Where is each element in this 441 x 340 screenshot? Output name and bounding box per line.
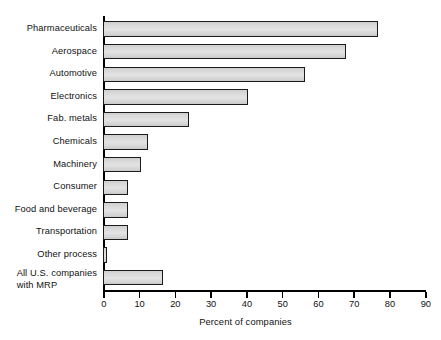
bar-chart-figure: PharmaceuticalsAerospaceAutomotiveElectr… bbox=[0, 0, 441, 340]
x-axis-tick-label: 40 bbox=[242, 299, 252, 310]
x-axis-tick-label: 50 bbox=[278, 299, 288, 310]
bar-row: Electronics bbox=[0, 86, 441, 109]
bar-fill bbox=[103, 112, 189, 127]
bar-fill bbox=[103, 202, 128, 217]
bar-row: Fab. metals bbox=[0, 108, 441, 131]
x-axis-tick-label: 60 bbox=[313, 299, 323, 310]
bar-row: Chemicals bbox=[0, 131, 441, 154]
x-axis-tick-label: 10 bbox=[134, 299, 144, 310]
x-axis-tick bbox=[139, 292, 141, 298]
category-label: Pharmaceuticals bbox=[27, 23, 97, 34]
x-axis-tick-label: 0 bbox=[101, 299, 106, 310]
x-axis-tick bbox=[425, 292, 427, 298]
x-axis-tick-label: 70 bbox=[349, 299, 359, 310]
category-label: Fab. metals bbox=[47, 113, 97, 124]
x-axis-tick bbox=[210, 292, 212, 298]
category-label: Consumer bbox=[53, 181, 97, 192]
x-axis-tick bbox=[318, 292, 320, 298]
bar-fill bbox=[103, 89, 248, 104]
bar bbox=[103, 44, 346, 59]
bar bbox=[103, 202, 128, 217]
bar bbox=[103, 225, 128, 240]
x-axis-tick-label: 80 bbox=[385, 299, 395, 310]
bar-fill bbox=[103, 157, 141, 172]
bar-fill bbox=[103, 44, 346, 59]
bar-row: Pharmaceuticals bbox=[0, 18, 441, 41]
bar bbox=[103, 67, 305, 82]
bar-row: Automotive bbox=[0, 63, 441, 86]
bar-row: Consumer bbox=[0, 176, 441, 199]
category-label: Automotive bbox=[49, 68, 97, 79]
category-label: All U.S. companies with MRP bbox=[17, 268, 97, 291]
bar bbox=[103, 134, 148, 149]
category-label: Aerospace bbox=[52, 46, 97, 57]
bar bbox=[103, 247, 107, 262]
bar bbox=[103, 112, 189, 127]
bar bbox=[103, 270, 163, 285]
x-axis-tick-label: 20 bbox=[170, 299, 180, 310]
bar-fill bbox=[103, 134, 148, 149]
bar-row: Other process bbox=[0, 244, 441, 267]
bar-row: Transportation bbox=[0, 221, 441, 244]
bar-row: Machinery bbox=[0, 154, 441, 177]
bar-fill bbox=[103, 180, 128, 195]
category-label: Other process bbox=[37, 249, 97, 260]
x-axis-tick bbox=[103, 292, 105, 298]
category-label: Food and beverage bbox=[15, 204, 97, 215]
category-label: Electronics bbox=[50, 91, 97, 102]
bar-fill bbox=[103, 270, 163, 285]
x-axis-title-text: Percent of companies bbox=[199, 316, 292, 327]
bar-row: Food and beverage bbox=[0, 199, 441, 222]
bar bbox=[103, 157, 141, 172]
x-axis-tick bbox=[282, 292, 284, 298]
x-axis-tick bbox=[389, 292, 391, 298]
x-axis-tick-label: 30 bbox=[206, 299, 216, 310]
bar-row: All U.S. companies with MRP bbox=[0, 267, 441, 290]
bar-fill bbox=[103, 247, 107, 262]
x-axis-line bbox=[103, 290, 426, 292]
category-label: Machinery bbox=[53, 159, 97, 170]
bar-row: Aerospace bbox=[0, 41, 441, 64]
bar bbox=[103, 180, 128, 195]
x-axis-tick bbox=[353, 292, 355, 298]
bar bbox=[103, 21, 378, 36]
bar-fill bbox=[103, 67, 305, 82]
bar bbox=[103, 89, 248, 104]
bar-fill bbox=[103, 225, 128, 240]
category-label: Transportation bbox=[36, 226, 97, 237]
x-axis-tick bbox=[246, 292, 248, 298]
x-axis-tick bbox=[175, 292, 177, 298]
bar-fill bbox=[103, 21, 378, 36]
x-axis-title: Percent of companies bbox=[0, 316, 441, 327]
x-axis-tick-label: 90 bbox=[421, 299, 431, 310]
category-label: Chemicals bbox=[53, 136, 97, 147]
